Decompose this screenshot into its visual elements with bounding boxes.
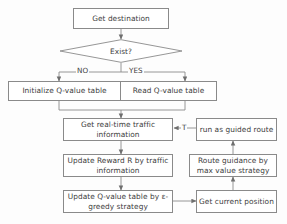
node-get-current-position-label: Get current position (197, 197, 276, 206)
node-initialize-q-table-label: Initialize Q-value table (20, 86, 108, 95)
node-update-reward-label: Update Reward R by traffic information (64, 156, 172, 174)
node-get-traffic-info: Get real-time traffic information (63, 118, 173, 141)
node-exist-decision-label: Exist? (110, 47, 132, 56)
flowchart-canvas: Get destination Exist? NO YES Initialize… (0, 0, 287, 224)
node-get-current-position: Get current position (196, 190, 277, 213)
node-get-traffic-info-label: Get real-time traffic information (64, 120, 172, 138)
edge-label-yes: YES (128, 67, 144, 75)
node-run-guided-route: run as guided route (196, 118, 277, 141)
node-read-q-table-label: Read Q-value table (131, 86, 207, 95)
node-update-reward: Update Reward R by traffic information (63, 154, 173, 177)
edge-label-t-text: T (182, 123, 186, 132)
node-get-destination-label: Get destination (90, 14, 152, 23)
node-update-q-table-label: Update Q-value table by ε-greedy strateg… (64, 192, 172, 210)
node-run-guided-route-label: run as guided route (198, 125, 276, 134)
node-route-guidance-label: Route guidance by max value strategy (190, 156, 276, 174)
node-get-destination: Get destination (73, 8, 169, 29)
node-exist-decision: Exist? (59, 39, 183, 63)
edge-label-no-text: NO (77, 66, 88, 75)
node-update-q-table: Update Q-value table by ε-greedy strateg… (63, 190, 173, 213)
edge-label-t: T (181, 124, 187, 132)
node-initialize-q-table: Initialize Q-value table (8, 81, 121, 101)
edge-label-yes-text: YES (129, 66, 143, 75)
node-route-guidance: Route guidance by max value strategy (189, 154, 277, 177)
edge-label-no: NO (76, 67, 89, 75)
node-read-q-table: Read Q-value table (120, 81, 217, 101)
